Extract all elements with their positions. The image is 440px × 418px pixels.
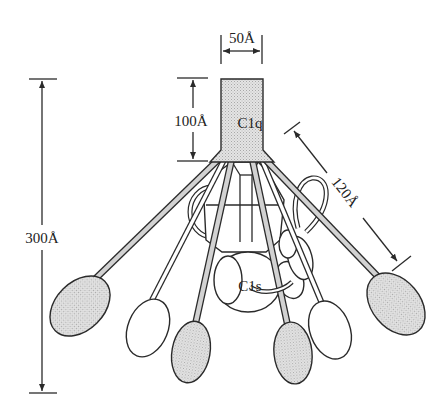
arm-length-label: 120Å <box>328 174 361 210</box>
stalk-width-dimension: 50Å <box>221 30 262 64</box>
stalk-width-label: 50Å <box>229 30 255 46</box>
head-shaded-2 <box>167 318 215 386</box>
stalk-height-label: 100Å <box>174 113 208 129</box>
c1-complex-diagram: 300Å 50Å 100Å 120Å <box>0 0 440 418</box>
c1s-label: C1s <box>238 278 262 294</box>
total-height-label: 300Å <box>25 230 59 246</box>
total-height-dimension: 300Å <box>25 79 59 393</box>
head-shaded-3 <box>271 320 315 386</box>
head-shaded-4 <box>355 262 437 346</box>
c1q-stalk: C1q <box>210 79 274 162</box>
head-shaded-1 <box>38 264 121 347</box>
head-white-1 <box>118 293 178 364</box>
c1q-label: C1q <box>237 115 263 131</box>
stalk-height-dimension: 100Å <box>174 78 208 161</box>
